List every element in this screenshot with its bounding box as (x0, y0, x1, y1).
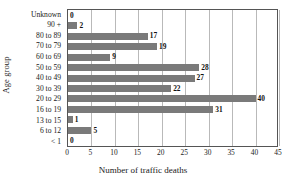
bar-row: 22 (68, 83, 277, 93)
plot-area: 02171992827224031150 (67, 9, 278, 147)
bar-row: 1 (68, 115, 277, 125)
bar-value-label: 19 (159, 43, 166, 50)
bar-row: 19 (68, 41, 277, 51)
bar (68, 33, 148, 40)
bar-chart: Age group Unknown90 +80 to 8970 to 7960 … (0, 0, 286, 190)
x-tick-label: 35 (227, 149, 234, 156)
x-tick-label: 5 (89, 149, 93, 156)
bar-row: 0 (68, 136, 277, 146)
category-label: 20 to 29 (10, 94, 64, 105)
bar-value-label: 22 (173, 85, 180, 92)
x-axis-tick-labels: 051015202530354045 (67, 149, 278, 161)
bar-row: 27 (68, 73, 277, 83)
category-label: 30 to 39 (10, 83, 64, 94)
category-label: 13 to 15 (10, 115, 64, 126)
bar (68, 22, 77, 29)
category-label: 6 to 12 (10, 126, 64, 137)
bar-row: 0 (68, 10, 277, 20)
bar-row: 40 (68, 94, 277, 104)
bar (68, 43, 157, 50)
bar (68, 127, 91, 134)
bar-value-label: 27 (197, 74, 204, 81)
bar-row: 17 (68, 31, 277, 41)
bar (68, 54, 110, 61)
bar-series: 02171992827224031150 (68, 10, 277, 146)
category-label: 16 to 19 (10, 104, 64, 115)
category-label: 80 to 89 (10, 30, 64, 41)
bar-value-label: 31 (215, 106, 222, 113)
bar (68, 95, 256, 102)
bar-value-label: 17 (150, 32, 157, 39)
category-label: 60 to 69 (10, 51, 64, 62)
y-axis-category-labels: Unknown90 +80 to 8970 to 7960 to 6950 to… (10, 9, 64, 147)
x-tick-label: 30 (204, 149, 211, 156)
bar-value-label: 28 (201, 64, 208, 71)
bar-row: 31 (68, 104, 277, 114)
bar-value-label: 9 (112, 53, 116, 60)
bar-value-label: 5 (93, 127, 97, 134)
bar (68, 75, 195, 82)
category-label: 40 to 49 (10, 73, 64, 84)
x-tick-label: 45 (274, 149, 281, 156)
category-label: 50 to 59 (10, 62, 64, 73)
bar (68, 106, 213, 113)
x-tick-label: 10 (110, 149, 117, 156)
bar-row: 9 (68, 52, 277, 62)
bar-value-label: 0 (70, 137, 74, 144)
x-tick-label: 15 (134, 149, 141, 156)
category-label: 90 + (10, 20, 64, 31)
category-label: Unknown (10, 9, 64, 20)
category-label: 70 to 79 (10, 41, 64, 52)
bar-value-label: 40 (258, 95, 265, 102)
bar-value-label: 0 (70, 12, 74, 19)
x-tick-label: 20 (157, 149, 164, 156)
bar-value-label: 2 (79, 22, 83, 29)
x-axis-title: Number of traffic deaths (0, 166, 286, 175)
gridline (279, 10, 280, 146)
bar (68, 116, 73, 123)
x-tick-label: 40 (251, 149, 258, 156)
x-tick-label: 0 (65, 149, 69, 156)
bar-value-label: 1 (75, 116, 79, 123)
x-tick-label: 25 (181, 149, 188, 156)
bar (68, 85, 171, 92)
x-axis-title-text: Number of traffic deaths (99, 165, 188, 175)
bar-row: 5 (68, 125, 277, 135)
category-label: < 1 (10, 136, 64, 147)
bar-row: 2 (68, 20, 277, 30)
bar (68, 64, 199, 71)
bar-row: 28 (68, 62, 277, 72)
